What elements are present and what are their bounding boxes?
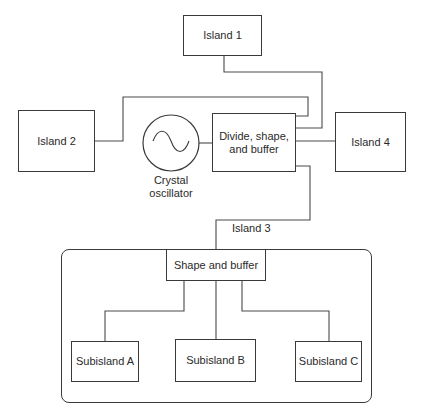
shape-and-buffer-label: Shape and buffer: [174, 259, 258, 272]
divide-shape-buffer-box: Divide, shape, and buffer: [212, 113, 296, 172]
edge-divide-island3: [216, 166, 310, 249]
subisland-c-box: Subisland C: [295, 341, 362, 382]
shape-and-buffer-box: Shape and buffer: [166, 249, 266, 281]
island-4-label: Island 4: [351, 136, 390, 149]
crystal-oscillator-label-line2: oscillator: [136, 187, 206, 200]
crystal-oscillator-label-line1: Crystal: [136, 174, 206, 187]
subisland-b-label: Subisland B: [186, 354, 245, 367]
subisland-b-box: Subisland B: [175, 339, 256, 382]
subisland-a-label: Subisland A: [76, 355, 134, 368]
clock-distribution-diagram: Island 1 Island 2 Crystal oscillator Div…: [0, 0, 422, 417]
subisland-a-box: Subisland A: [71, 341, 139, 382]
island-1-box: Island 1: [183, 15, 262, 56]
crystal-oscillator-label: Crystal oscillator: [136, 174, 206, 200]
island-2-label: Island 2: [37, 135, 76, 148]
subisland-c-label: Subisland C: [299, 355, 358, 368]
divide-label-line1: Divide, shape,: [219, 130, 289, 143]
island-1-label: Island 1: [203, 29, 242, 42]
island-4-box: Island 4: [335, 112, 406, 172]
island-2-box: Island 2: [18, 110, 95, 172]
divide-label-line2: and buffer: [229, 143, 278, 156]
crystal-oscillator-symbol: [143, 115, 199, 171]
island-3-label: Island 3: [232, 222, 271, 235]
